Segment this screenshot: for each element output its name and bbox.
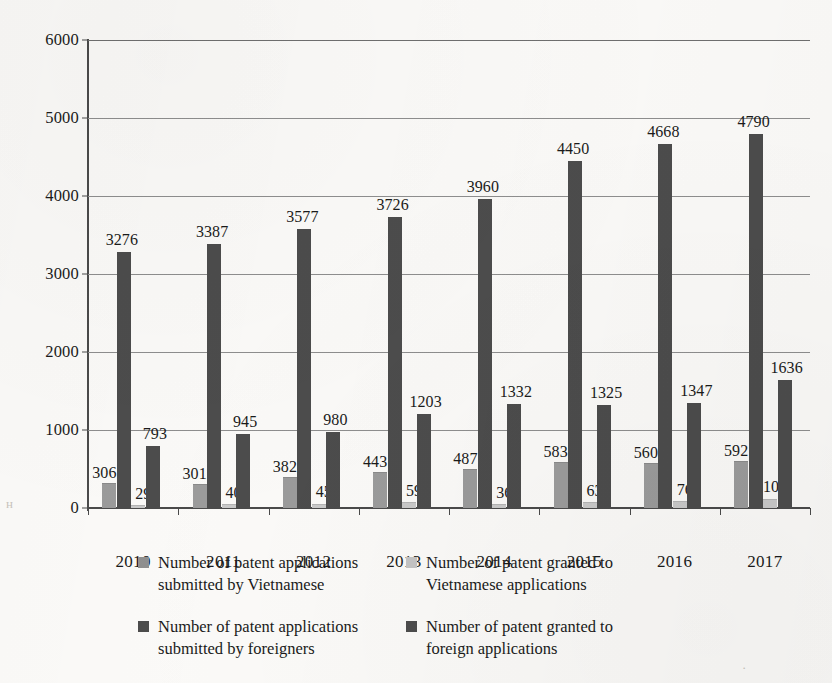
bar-value-label: 3960 bbox=[467, 178, 499, 196]
bar-2013-series2[interactable] bbox=[388, 217, 402, 508]
legend-label: Number of patent applicationssubmitted b… bbox=[158, 616, 358, 660]
bar-2017-series1[interactable] bbox=[734, 461, 748, 508]
bar-2015-series1[interactable] bbox=[554, 462, 568, 508]
bar-2012-series2[interactable] bbox=[297, 229, 311, 508]
bar-value-label: 4790 bbox=[737, 113, 769, 131]
legend-label: Number of patent granted toforeign appli… bbox=[426, 616, 613, 660]
bar-2011-series3[interactable] bbox=[222, 504, 236, 508]
bar-value-label: 3387 bbox=[196, 223, 228, 241]
y-axis-tick-label: 2000 bbox=[45, 342, 79, 362]
bar-value-label: 301 bbox=[182, 465, 206, 483]
bar-2010-series4[interactable] bbox=[146, 446, 160, 508]
bar-value-label: 1347 bbox=[680, 382, 712, 400]
bar-cluster-2016: 5604668761347 bbox=[630, 40, 720, 508]
bar-2015-series3[interactable] bbox=[583, 502, 597, 508]
scan-artifact: н bbox=[6, 496, 13, 512]
bar-value-label: 592 bbox=[724, 442, 748, 460]
legend-swatch-icon bbox=[406, 621, 417, 632]
bar-cluster-2015: 5834450631325 bbox=[539, 40, 629, 508]
bar-2016-series4[interactable] bbox=[687, 403, 701, 508]
bar-cluster-2012: 382357745980 bbox=[269, 40, 359, 508]
bar-value-label: 980 bbox=[323, 411, 347, 429]
bar-value-label: 3276 bbox=[106, 231, 138, 249]
bar-value-label: 1203 bbox=[409, 393, 441, 411]
bar-value-label: 306 bbox=[92, 464, 116, 482]
bar-value-label: 1325 bbox=[590, 384, 622, 402]
legend-swatch-icon bbox=[138, 557, 149, 568]
bar-value-label: 4668 bbox=[647, 123, 679, 141]
bar-cluster-2013: 4433726591203 bbox=[359, 40, 449, 508]
bar-2011-series4[interactable] bbox=[236, 434, 250, 508]
bar-value-label: 583 bbox=[543, 443, 567, 461]
legend-item-series3[interactable]: Number of patent granted toVietnamese ap… bbox=[406, 552, 778, 596]
legend-item-series4[interactable]: Number of patent granted toforeign appli… bbox=[406, 616, 778, 660]
bar-value-label: 1636 bbox=[770, 359, 802, 377]
bar-2016-series3[interactable] bbox=[673, 501, 687, 508]
x-tick-mark bbox=[630, 508, 631, 515]
legend-swatch-icon bbox=[406, 557, 417, 568]
bar-2012-series3[interactable] bbox=[312, 504, 326, 509]
y-axis-tick-label: 4000 bbox=[45, 186, 79, 206]
x-tick-mark bbox=[539, 508, 540, 515]
bar-2014-series2[interactable] bbox=[478, 199, 492, 508]
bar-value-label: 443 bbox=[363, 453, 387, 471]
bar-2017-series4[interactable] bbox=[778, 380, 792, 508]
plot-area: 0100020003000400050006000306327629793201… bbox=[88, 40, 810, 508]
bar-2012-series4[interactable] bbox=[326, 432, 340, 508]
legend-item-series1[interactable]: Number of patent applicationssubmitted b… bbox=[138, 552, 406, 596]
y-axis-tick-label: 0 bbox=[71, 498, 79, 518]
bar-2014-series4[interactable] bbox=[507, 404, 521, 508]
bar-cluster-2011: 301338740945 bbox=[178, 40, 268, 508]
bar-2012-series1[interactable] bbox=[283, 477, 297, 508]
x-tick-mark bbox=[359, 508, 360, 515]
bar-2017-series2[interactable] bbox=[749, 134, 763, 508]
bar-value-label: 3577 bbox=[286, 208, 318, 226]
bar-value-label: 1332 bbox=[500, 383, 532, 401]
bar-2010-series1[interactable] bbox=[102, 483, 116, 508]
bar-2013-series3[interactable] bbox=[402, 502, 416, 508]
x-tick-mark bbox=[88, 508, 89, 515]
bar-2010-series2[interactable] bbox=[117, 252, 131, 508]
bar-2011-series1[interactable] bbox=[193, 484, 207, 508]
x-tick-mark bbox=[178, 508, 179, 515]
bar-2016-series1[interactable] bbox=[644, 463, 658, 508]
bar-2015-series2[interactable] bbox=[568, 161, 582, 508]
x-tick-mark bbox=[810, 508, 811, 515]
y-axis-tick-label: 5000 bbox=[45, 108, 79, 128]
bar-2010-series3[interactable] bbox=[131, 505, 145, 508]
bar-2017-series3[interactable] bbox=[763, 499, 777, 509]
bar-value-label: 793 bbox=[143, 425, 167, 443]
legend-label: Number of patent granted toVietnamese ap… bbox=[426, 552, 613, 596]
legend-item-series2[interactable]: Number of patent applicationssubmitted b… bbox=[138, 616, 406, 660]
bar-cluster-2010: 306327629793 bbox=[88, 40, 178, 508]
legend-swatch-icon bbox=[138, 621, 149, 632]
bar-2013-series1[interactable] bbox=[373, 472, 387, 508]
y-axis-tick-label: 1000 bbox=[45, 420, 79, 440]
bar-2013-series4[interactable] bbox=[417, 414, 431, 508]
legend-label: Number of patent applicationssubmitted b… bbox=[158, 552, 358, 596]
chart-page: 0100020003000400050006000306327629793201… bbox=[0, 0, 832, 683]
bar-cluster-2017: 59247901091636 bbox=[720, 40, 810, 508]
bar-2016-series2[interactable] bbox=[658, 144, 672, 508]
bar-2014-series1[interactable] bbox=[463, 469, 477, 508]
bar-value-label: 382 bbox=[273, 458, 297, 476]
bar-value-label: 487 bbox=[453, 450, 477, 468]
x-tick-mark bbox=[449, 508, 450, 515]
chart-legend: Number of patent applicationssubmitted b… bbox=[138, 552, 778, 660]
bar-value-label: 3726 bbox=[376, 196, 408, 214]
x-tick-mark bbox=[269, 508, 270, 515]
y-axis-tick-label: 6000 bbox=[45, 30, 79, 50]
bar-value-label: 4450 bbox=[557, 140, 589, 158]
scan-artifact: · bbox=[742, 660, 746, 676]
x-tick-mark bbox=[720, 508, 721, 515]
bar-value-label: 560 bbox=[634, 444, 658, 462]
bar-2015-series4[interactable] bbox=[597, 405, 611, 508]
bar-2011-series2[interactable] bbox=[207, 244, 221, 508]
y-axis-tick-label: 3000 bbox=[45, 264, 79, 284]
bar-2014-series3[interactable] bbox=[492, 504, 506, 508]
bar-value-label: 945 bbox=[233, 413, 257, 431]
bar-cluster-2014: 4873960361332 bbox=[449, 40, 539, 508]
